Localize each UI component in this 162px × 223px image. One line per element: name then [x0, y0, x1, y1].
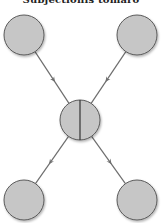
edge-top-left-to-center — [35, 52, 69, 104]
edge-top-right-to-center — [91, 52, 126, 104]
diagram-canvas — [0, 0, 162, 223]
node-bottom-right — [117, 180, 157, 220]
node-top-right — [117, 15, 157, 55]
node-circle — [117, 15, 157, 55]
node-bottom-left — [4, 180, 44, 220]
edge-center-to-bottom-right — [92, 136, 126, 183]
node-circle — [117, 180, 157, 220]
edge-center-to-bottom-left — [35, 136, 68, 183]
node-center — [60, 100, 100, 140]
node-circle — [4, 15, 44, 55]
node-top-left — [4, 15, 44, 55]
node-circle — [4, 180, 44, 220]
